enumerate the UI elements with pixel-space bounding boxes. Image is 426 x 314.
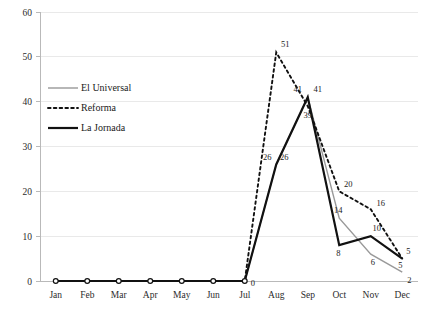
y-tick-label: 20 [23, 187, 33, 197]
legend: El UniversalReformaLa Jornada [48, 82, 131, 133]
x-axis-tick-labels: JanFebMarAprMayJunJulAugSepOctNovDec [49, 290, 409, 300]
y-tick-label: 40 [23, 97, 33, 107]
data-point-label: 39 [304, 110, 313, 120]
zero-marker [85, 279, 90, 284]
data-point-label: 26 [263, 152, 272, 162]
data-point-labels: 26411462513920165026418105 [251, 39, 412, 288]
x-tick-label: Jul [239, 290, 250, 300]
zero-marker [242, 279, 247, 284]
data-point-label: 14 [334, 205, 343, 215]
x-tick-label: Dec [395, 290, 410, 300]
data-point-label: 6 [371, 257, 375, 267]
y-tick-label: 30 [23, 142, 33, 152]
data-point-label: 5 [398, 260, 402, 270]
y-tick-marks [36, 12, 40, 281]
x-tick-label: Jun [207, 290, 220, 300]
x-tick-label: Sep [301, 290, 316, 300]
x-tick-label: Jan [49, 290, 62, 300]
chart-canvas: 0102030405060 JanFebMarAprMayJunJulAugSe… [0, 0, 426, 314]
zero-marker [148, 279, 153, 284]
data-point-label: 10 [373, 223, 382, 233]
y-axis-tick-labels: 0102030405060 [23, 8, 33, 287]
legend-label-la-jornada: La Jornada [81, 122, 126, 133]
line-chart: 0102030405060 JanFebMarAprMayJunJulAugSe… [0, 0, 426, 314]
data-point-label: 5 [406, 246, 410, 256]
data-point-label: 41 [314, 84, 323, 94]
zero-marker [53, 279, 58, 284]
x-tick-label: Feb [80, 290, 95, 300]
legend-label-reforma: Reforma [81, 102, 117, 113]
data-point-label: 20 [344, 179, 353, 189]
data-point-label: 26 [280, 152, 289, 162]
zero-marker [179, 279, 184, 284]
x-tick-label: Aug [268, 290, 285, 300]
zero-marker [116, 279, 121, 284]
x-tick-label: Nov [363, 290, 380, 300]
x-tick-label: Mar [111, 290, 128, 300]
x-tick-label: Oct [332, 290, 346, 300]
y-tick-label: 60 [23, 8, 33, 18]
data-point-label: 2 [407, 275, 411, 285]
x-tick-label: Apr [143, 290, 159, 300]
data-point-label: 41 [294, 84, 303, 94]
zero-marker [211, 279, 216, 284]
data-point-label: 51 [281, 39, 290, 49]
legend-label-el-universal: El Universal [81, 82, 131, 93]
data-point-label: 8 [336, 248, 340, 258]
data-point-label: 0 [251, 278, 255, 288]
x-tick-label: May [173, 290, 191, 300]
data-point-label: 16 [377, 198, 386, 208]
y-tick-label: 10 [23, 232, 33, 242]
y-tick-label: 0 [27, 277, 32, 287]
y-tick-label: 50 [23, 52, 33, 62]
gridlines [40, 12, 418, 281]
